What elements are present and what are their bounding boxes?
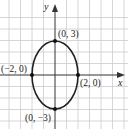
- label-left: (−2, 0): [1, 64, 27, 75]
- y-axis-label: y: [43, 1, 49, 12]
- label-top: (0, 3): [58, 29, 79, 40]
- x-axis-label: x: [117, 77, 123, 88]
- label-bottom: (0, −3): [25, 113, 51, 124]
- point-bottom: [53, 107, 57, 111]
- ellipse-chart: y x (0, 3) (2, 0) (−2, 0) (0, −3): [0, 0, 128, 129]
- point-right: [76, 73, 80, 77]
- point-left: [30, 73, 34, 77]
- label-right: (2, 0): [80, 78, 101, 89]
- y-axis-arrow-icon: [52, 4, 58, 12]
- point-top: [53, 39, 57, 43]
